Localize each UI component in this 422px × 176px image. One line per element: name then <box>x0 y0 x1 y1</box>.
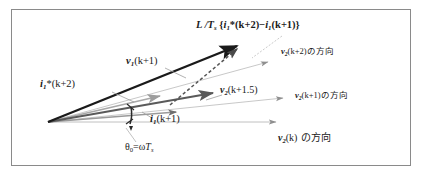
label-direction-v2-k2: v2(k+2)の方向 <box>281 47 334 57</box>
leader-line-i1star <box>112 92 134 102</box>
angle-arrow-down <box>129 126 133 131</box>
label-i1-k1: i1(k+1) <box>150 113 180 125</box>
label-v2k15-arg: (k+1.5) <box>228 84 258 95</box>
label-i1k1-arg: (k+1) <box>156 113 179 124</box>
leader-line-ldt <box>252 36 282 58</box>
label-v1-k1: v1(k+1) <box>126 55 158 67</box>
label-dirk2-jp: の方向 <box>307 46 334 56</box>
label-theta0: θ0=ωTs <box>125 142 153 154</box>
label-direction-v2-k1: v2(k+1)の方向 <box>295 91 348 101</box>
label-ldt-prefix: L /T <box>196 19 214 30</box>
label-v1-arg: (k+1) <box>134 55 157 66</box>
label-ldt-k1: (k+1)} <box>272 19 300 30</box>
label-ldt-k2: (k+2) <box>235 19 259 30</box>
label-dirk0-arg: (k) <box>286 132 298 143</box>
label-dirk0-jp: の方向 <box>297 132 330 143</box>
label-dirk1-arg: (k+1) <box>302 90 321 100</box>
label-ldt-difference: L /Ts {i1*(k+2)−i1(k+1)} <box>196 19 300 31</box>
label-direction-v2-k: v2(k) の方向 <box>278 133 331 145</box>
label-theta-T-sub: s <box>151 146 154 153</box>
label-theta-eq: =ω <box>133 141 145 152</box>
label-v2-k15: v2(k+1.5) <box>220 85 258 97</box>
label-i1-star-k2: i1*(k+2) <box>40 78 75 90</box>
label-i1star-arg: (k+2) <box>52 78 75 89</box>
label-dirk1-jp: の方向 <box>321 90 348 100</box>
label-dirk2-arg: (k+2) <box>288 46 307 56</box>
vector-diagram-figure: L /Ts {i1*(k+2)−i1(k+1)} v1(k+1) i1*(k+2… <box>0 0 422 176</box>
